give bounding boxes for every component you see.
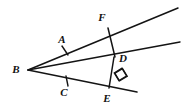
ray-lower-through-C-and-E [28, 70, 137, 92]
segment-F-to-D [108, 28, 115, 57]
vertex-label-f: F [97, 11, 106, 23]
geometry-figure: B A F D C E [0, 0, 192, 108]
tick-marks-group [62, 46, 68, 86]
right-angle-markers-group [114, 68, 128, 82]
ray-middle-through-D [28, 42, 180, 70]
geometry-canvas: B A F D C E [0, 0, 192, 108]
vertex-label-b: B [11, 63, 19, 75]
segment-D-to-E [109, 57, 114, 88]
vertex-label-a: A [57, 33, 65, 45]
vertex-labels-group: B A F D C E [11, 11, 127, 104]
vertex-label-c: C [60, 86, 68, 98]
vertex-label-e: E [102, 92, 110, 104]
congruence-tick-a-icon [62, 46, 68, 55]
vertex-label-d: D [118, 52, 127, 64]
